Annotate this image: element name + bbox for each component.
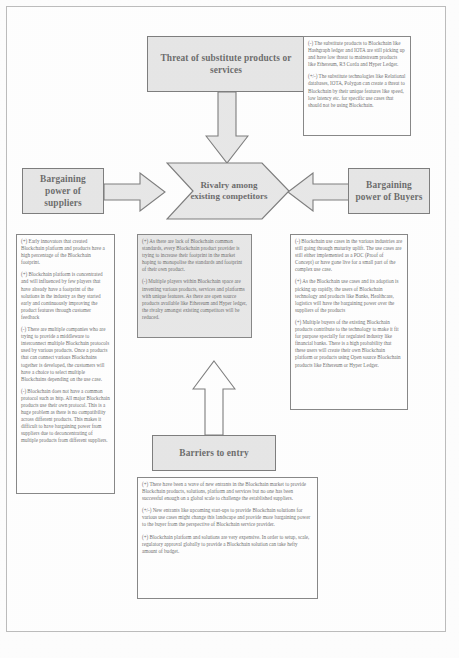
notes-buyers: (-) Blockchain use cases in the various … — [290, 234, 408, 410]
notes-suppliers: (+) Early innovators that created Blockc… — [16, 234, 115, 494]
arrow-buyers-to-rivalry — [288, 172, 350, 212]
note-item: (+/-) New entrants like upcoming start-u… — [142, 507, 313, 528]
force-box-substitutes: Threat of substitute products or service… — [147, 36, 305, 92]
force-label-suppliers: Bargaining power of suppliers — [29, 173, 97, 209]
note-item: (-) Multiple players within Blockchain s… — [142, 278, 247, 321]
notes-substitutes: (-) The substitute products to Blockchai… — [303, 36, 411, 136]
force-label-rivalry: Rivalry among existing competitors — [190, 174, 268, 208]
note-item: (-) Blockchain use cases in the various … — [295, 238, 403, 273]
note-item: (-) There are multiple companies who are… — [21, 326, 110, 383]
note-item: (+) As the Blockchain use cases and its … — [295, 278, 403, 313]
diagram-page: Threat of substitute products or service… — [0, 0, 459, 658]
note-item: (+/-) The substitute technologies like R… — [308, 73, 406, 108]
note-item: (-) The substitute products to Blockchai… — [308, 40, 406, 68]
note-item: (+) Multiple buyers of the existing Bloc… — [295, 319, 403, 369]
note-item: (+) As there are lack of Blockchain comm… — [142, 238, 247, 273]
note-item: (+) Early innovators that created Blockc… — [21, 238, 110, 266]
force-label-substitutes: Threat of substitute products or service… — [154, 52, 298, 76]
note-item: (+) Blockchain platform is concentrated … — [21, 271, 110, 321]
arrow-substitutes-to-rivalry — [205, 92, 249, 164]
note-item: (+) There have been a wave of new entran… — [142, 481, 313, 502]
arrow-suppliers-to-rivalry — [104, 172, 166, 212]
force-label-buyers: Bargaining power of Buyers — [355, 179, 423, 203]
force-box-rivalry: Rivalry among existing competitors — [166, 162, 290, 220]
arrow-entry-to-rivalry — [192, 360, 236, 436]
note-item: (-) Blockchain does not have a common pr… — [21, 388, 110, 445]
force-box-entry: Barriers to entry — [152, 435, 276, 471]
force-box-buyers: Bargaining power of Buyers — [348, 168, 430, 214]
force-label-entry: Barriers to entry — [179, 447, 248, 459]
notes-rivalry: (+) As there are lack of Blockchain comm… — [137, 234, 252, 338]
force-box-suppliers: Bargaining power of suppliers — [22, 168, 104, 214]
notes-entry: (+) There have been a wave of new entran… — [137, 477, 318, 599]
note-item: (+) Blockchain platform and solutions ar… — [142, 534, 313, 555]
